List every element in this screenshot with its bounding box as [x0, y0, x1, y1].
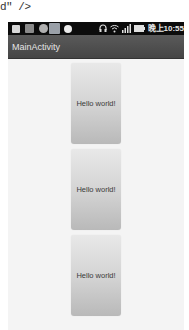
hello-card-3[interactable]: Hello world! [71, 235, 121, 316]
usb-icon [25, 24, 34, 33]
content-area[interactable]: Hello world! Hello world! Hello world! [8, 59, 184, 330]
status-bar-left-icons [8, 23, 72, 34]
signal-icon [122, 24, 131, 33]
hello-card-2[interactable]: Hello world! [71, 149, 121, 230]
action-bar: MainActivity [8, 35, 184, 59]
status-time: 晚上10:55 [148, 22, 184, 35]
wifi-icon [110, 24, 119, 33]
notification-icon [12, 25, 20, 33]
card-text: Hello world! [76, 185, 115, 194]
headset-icon [99, 24, 107, 33]
status-bar: 晚上10:55 [8, 22, 184, 35]
battery-icon [134, 25, 145, 32]
sync-icon [39, 24, 48, 33]
card-text: Hello world! [76, 271, 115, 280]
photo-icon [49, 23, 60, 34]
device-screen: 晚上10:55 MainActivity Hello world! Hello … [8, 22, 184, 330]
code-fragment: d" /> [0, 0, 31, 14]
hello-card-1[interactable]: Hello world! [71, 63, 121, 144]
status-bar-right-icons: 晚上10:55 [99, 22, 184, 35]
activity-title: MainActivity [8, 42, 60, 52]
clock-icon [64, 25, 72, 33]
card-text: Hello world! [76, 99, 115, 108]
